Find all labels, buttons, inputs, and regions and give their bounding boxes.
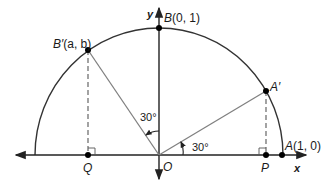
angle-arc-A-prime [181, 142, 183, 155]
point-P [263, 152, 269, 158]
label-A: A(1, 0) [284, 139, 321, 153]
label-B-prime: B′(a, b) [53, 37, 91, 51]
radius-O-B-prime [88, 50, 159, 155]
label-Q: Q [83, 161, 92, 175]
label-P: P [261, 161, 269, 175]
y-axis-label: y [146, 8, 154, 20]
angle-label-A-prime: 30° [192, 141, 209, 153]
label-A-prime: A′ [269, 80, 281, 94]
label-O: O [163, 160, 172, 174]
unit-circle-diagram: y x B(0, 1) B′(a, b) A′ A(1, 0) Q P O 30… [0, 0, 330, 181]
angle-arc-B-prime [146, 131, 159, 135]
point-B [156, 25, 162, 31]
point-Q [85, 152, 91, 158]
angle-label-B-prime: 30° [140, 111, 157, 123]
point-A-prime [263, 88, 269, 94]
label-B: B(0, 1) [164, 11, 200, 25]
radius-O-A-prime [159, 91, 266, 155]
x-axis-label: x [293, 162, 301, 174]
